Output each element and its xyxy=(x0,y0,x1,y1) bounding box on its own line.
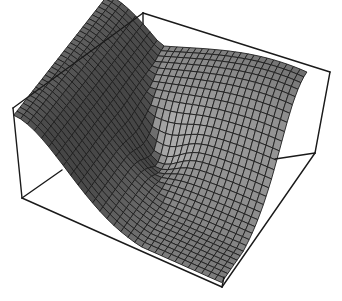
box-edge-right-vertical xyxy=(315,72,330,153)
box-edge-bottom-right-back xyxy=(275,153,315,159)
mesh-surface xyxy=(14,0,307,282)
surface-plot xyxy=(0,0,342,301)
box-edge-bottom-left-back xyxy=(22,170,62,198)
box-edge-left-vertical xyxy=(13,108,22,198)
